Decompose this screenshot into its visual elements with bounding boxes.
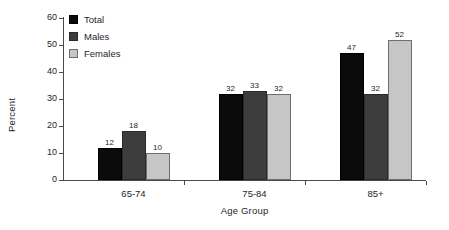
- legend-item[interactable]: Males: [69, 28, 120, 45]
- legend-item-label: Males: [84, 31, 109, 42]
- x-axis-tick-mark: [305, 181, 306, 185]
- x-axis-title: Age Group: [63, 205, 426, 216]
- bar: 47: [340, 53, 364, 180]
- legend-item[interactable]: Females: [69, 45, 120, 62]
- y-axis-tick-mark: [59, 180, 63, 181]
- y-axis-tick-label: 10: [47, 147, 57, 157]
- y-axis-tick-mark: [59, 18, 63, 19]
- bar: 32: [267, 94, 291, 180]
- y-axis-tick-label: 60: [47, 12, 57, 22]
- legend-swatch-icon: [69, 32, 78, 41]
- y-axis-tick-mark: [59, 99, 63, 100]
- legend-swatch-icon: [69, 15, 78, 24]
- bar: 32: [219, 94, 243, 180]
- y-axis-title: Percent: [2, 0, 20, 230]
- bar-value-label: 47: [347, 43, 356, 52]
- y-axis-tick-mark: [59, 45, 63, 46]
- y-axis-tick-label: 40: [47, 66, 57, 76]
- bar-value-label: 10: [153, 143, 162, 152]
- bar: 18: [122, 131, 146, 180]
- bar-value-label: 32: [226, 84, 235, 93]
- bar-value-label: 18: [129, 121, 138, 130]
- legend-item[interactable]: Total: [69, 11, 120, 28]
- x-axis-tick-mark: [426, 181, 427, 185]
- y-axis-tick-mark: [59, 153, 63, 154]
- x-axis-category-label: 65-74: [121, 188, 145, 199]
- x-axis-category-label: 75-84: [242, 188, 266, 199]
- y-axis-tick-label: 30: [47, 93, 57, 103]
- bar-value-label: 12: [105, 138, 114, 147]
- y-axis-tick-label: 0: [52, 174, 57, 184]
- bar: 32: [364, 94, 388, 180]
- x-axis-line: [63, 180, 426, 181]
- y-axis-tick-mark: [59, 72, 63, 73]
- bar: 12: [98, 148, 122, 180]
- bar: 33: [243, 91, 267, 180]
- legend-item-label: Total: [84, 14, 104, 25]
- bar: 52: [388, 40, 412, 180]
- bar: 10: [146, 153, 170, 180]
- bar-value-label: 32: [371, 84, 380, 93]
- bar-chart: Percent 0102030405060 121810323332473252…: [0, 0, 449, 230]
- x-axis-category-label: 85+: [367, 188, 383, 199]
- bar-value-label: 32: [274, 84, 283, 93]
- y-axis-tick-mark: [59, 126, 63, 127]
- y-axis-tick-label: 20: [47, 120, 57, 130]
- legend-swatch-icon: [69, 49, 78, 58]
- chart-legend: TotalMalesFemales: [69, 11, 120, 62]
- y-axis-tick-label: 50: [47, 39, 57, 49]
- bar-value-label: 52: [395, 30, 404, 39]
- x-axis-tick-mark: [184, 181, 185, 185]
- legend-item-label: Females: [84, 48, 120, 59]
- bar-value-label: 33: [250, 81, 259, 90]
